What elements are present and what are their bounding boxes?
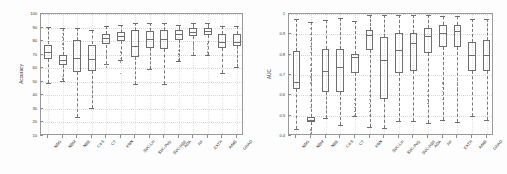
x-axis-tick-label: GRAD [242, 139, 254, 151]
x-axis-tick-label: C4.5 [96, 139, 105, 149]
x-axis-tick [339, 135, 340, 138]
x-axis-tick-label: C4.5 [345, 139, 354, 149]
x-axis-tick-label: EXTR [462, 139, 473, 150]
y-axis-tick [40, 67, 43, 68]
plot-area [288, 13, 493, 135]
y-axis-tick [288, 94, 291, 95]
y-axis-tick [288, 135, 291, 136]
y-axis-tick [288, 33, 291, 34]
median-line [233, 42, 241, 43]
y-axis-tick-label: 70 [18, 51, 37, 56]
x-axis-tick-label: NBG [53, 139, 63, 149]
x-axis-tick-label: GRAD [492, 139, 504, 151]
x-axis-tick [310, 135, 311, 138]
y-axis-tick [288, 54, 291, 55]
plot-inner [41, 14, 242, 134]
y-axis-tick-label: 20 [18, 119, 37, 124]
x-axis-tick-label: SVC-RBF [421, 139, 437, 155]
y-axis-tick-label: 0.8 [266, 51, 285, 56]
y-axis-tick-label: 30 [18, 105, 37, 110]
boxplot-figure: 102030405060708090100AccuracyNBGNBMNBBC4… [0, 0, 507, 174]
x-axis-tick [192, 135, 193, 138]
x-axis-tick-label: AdaB [227, 139, 237, 150]
x-axis-tick [91, 135, 92, 138]
y-axis-tick-label: 1 [266, 11, 285, 16]
y-axis-tick [40, 13, 43, 14]
y-axis-tick [40, 135, 43, 136]
x-axis-tick [412, 135, 413, 138]
x-axis-tick-label: KNN [125, 139, 134, 149]
y-axis-title: AUC [267, 57, 272, 91]
y-axis-tick-label: 10 [18, 133, 37, 138]
whisker-cap-lower [234, 67, 239, 68]
x-axis-tick [221, 135, 222, 138]
boxplot-grad [289, 14, 492, 134]
x-axis-tick [47, 135, 48, 138]
x-axis-tick-label: NBB [81, 139, 90, 148]
x-axis-tick-label: NBB [330, 139, 339, 148]
x-axis-tick-label: NBM [67, 139, 77, 149]
y-axis-tick [40, 94, 43, 95]
y-axis-tick [40, 27, 43, 28]
x-axis-tick [207, 135, 208, 138]
y-axis-tick-label: 100 [18, 11, 37, 16]
median-line [483, 55, 491, 56]
x-axis-tick [427, 135, 428, 138]
x-axis-tick-label: SVC-Poly [157, 139, 172, 155]
whisker-cap-upper [484, 19, 489, 20]
x-axis-tick-label: RF [197, 139, 204, 146]
y-axis-tick [40, 40, 43, 41]
whisker-upper [487, 19, 488, 40]
y-axis-tick-label: 0.6 [266, 92, 285, 97]
x-axis-tick [178, 135, 179, 138]
x-axis-tick [236, 135, 237, 138]
y-axis-tick-label: 80 [18, 38, 37, 43]
x-axis-tick [325, 135, 326, 138]
x-axis-tick [442, 135, 443, 138]
y-axis-title: Accuracy [19, 57, 24, 91]
x-axis-tick-label: RF [446, 139, 453, 146]
x-axis-tick-label: SVC-Lin [142, 139, 156, 153]
y-axis-tick-label: 0.5 [266, 112, 285, 117]
x-axis-tick-label: NBG [301, 139, 311, 149]
x-axis-tick [456, 135, 457, 138]
whisker-upper [237, 26, 238, 33]
y-axis-tick-label: 0.9 [266, 31, 285, 36]
x-axis-tick-label: EXTR [213, 139, 224, 150]
y-axis-tick [288, 115, 291, 116]
y-axis-tick [40, 81, 43, 82]
plot-inner [289, 14, 492, 134]
y-axis-tick [40, 121, 43, 122]
x-axis-tick [369, 135, 370, 138]
x-axis-tick [398, 135, 399, 138]
y-axis-tick [288, 13, 291, 14]
y-axis-tick [40, 54, 43, 55]
boxplot-grad [41, 14, 242, 134]
auc-panel: 0.40.50.60.70.80.91AUCNBGNBMNBBC4.5CTKNN… [253, 0, 506, 174]
x-axis-tick [486, 135, 487, 138]
y-axis-tick [288, 74, 291, 75]
box-iqr [233, 34, 241, 46]
x-axis-tick [471, 135, 472, 138]
plot-area [40, 13, 243, 135]
x-axis-tick-label: SVC-Poly [406, 139, 421, 155]
y-axis-tick-label: 40 [18, 92, 37, 97]
x-axis-tick [163, 135, 164, 138]
y-axis-tick-label: 0.4 [266, 133, 285, 138]
x-axis-tick-label: AdaB [477, 139, 487, 150]
y-axis-tick [40, 108, 43, 109]
x-axis-tick [383, 135, 384, 138]
x-axis-tick [120, 135, 121, 138]
x-axis-tick [76, 135, 77, 138]
x-axis-tick-label: KNN [374, 139, 383, 149]
y-axis-tick-label: 90 [18, 24, 37, 29]
x-axis-tick [62, 135, 63, 138]
x-axis-tick [105, 135, 106, 138]
x-axis-tick [134, 135, 135, 138]
x-axis-tick-label: NBM [315, 139, 325, 149]
box-iqr [483, 40, 491, 71]
x-axis-tick-label: SVC-Lin [391, 139, 405, 153]
whisker-cap-upper [234, 26, 239, 27]
x-axis-tick [354, 135, 355, 138]
whisker-cap-lower [484, 120, 489, 121]
